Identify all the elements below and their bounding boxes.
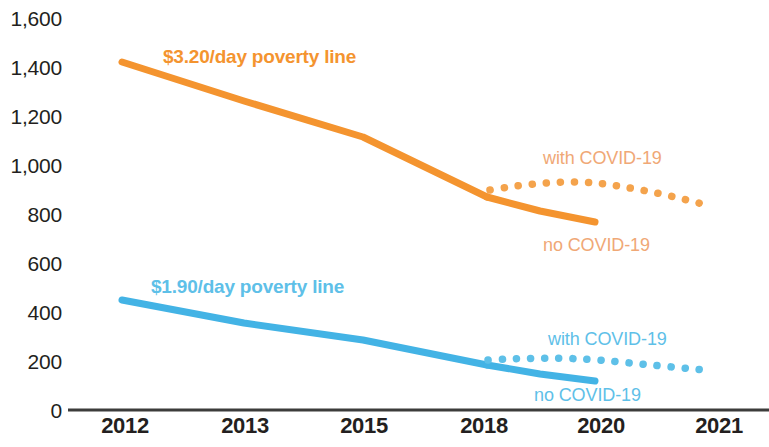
orange-no-covid-label: no COVID-19 bbox=[543, 235, 650, 256]
x-axis-tick-2021: 2021 bbox=[695, 413, 743, 439]
x-axis-tick-2012: 2012 bbox=[101, 413, 149, 439]
orange-line-with-covid-dotted bbox=[490, 182, 706, 205]
orange-line-historic bbox=[122, 62, 487, 197]
poverty-projection-chart: 1,600 1,400 1,200 1,000 800 600 400 200 … bbox=[0, 0, 769, 447]
orange-with-covid-label: with COVID-19 bbox=[543, 148, 662, 169]
blue-line-historic bbox=[122, 300, 487, 365]
x-axis-tick-2015: 2015 bbox=[340, 413, 388, 439]
x-axis-tick-2013: 2013 bbox=[221, 413, 269, 439]
blue-series-label: $1.90/day poverty line bbox=[151, 276, 344, 298]
blue-with-covid-label: with COVID-19 bbox=[548, 329, 667, 350]
blue-no-covid-label: no COVID-19 bbox=[534, 385, 641, 406]
x-axis-tick-2020: 2020 bbox=[577, 413, 625, 439]
x-axis-tick-2018: 2018 bbox=[460, 413, 508, 439]
orange-series-label: $3.20/day poverty line bbox=[163, 46, 356, 68]
orange-line-no-covid bbox=[487, 197, 595, 222]
blue-line-no-covid bbox=[487, 365, 595, 381]
plot-area bbox=[0, 0, 769, 447]
